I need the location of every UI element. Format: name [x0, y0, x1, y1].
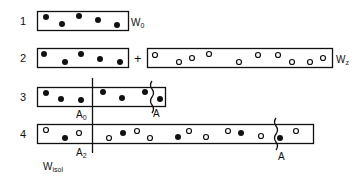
row4-open-dots — [44, 128, 299, 141]
a-label-row4: A — [278, 151, 285, 162]
a0-label: A0 — [76, 109, 87, 121]
row2-label: 2 — [20, 52, 26, 64]
row2-box-left — [38, 49, 129, 68]
w0-label: W0 — [131, 17, 144, 29]
row2-left-dots — [41, 51, 123, 65]
row3-dots — [43, 89, 163, 103]
row4-break-brace — [275, 118, 278, 150]
row2-right-dots — [153, 52, 326, 65]
wz-label: Wz — [336, 54, 349, 66]
row3-label: 3 — [20, 91, 26, 103]
row1-dots — [43, 13, 120, 28]
row1-box — [38, 12, 129, 31]
a2-label: A2 — [76, 147, 87, 159]
row4-label: 4 — [20, 128, 26, 140]
wisol-label: Wisol — [43, 161, 63, 173]
diagram: 1 2 3 4 W0 + Wz A0 A A2 A Wisol — [0, 0, 363, 182]
row4-filled-dots — [62, 130, 283, 141]
row1-label: 1 — [20, 15, 26, 27]
plus-operator: + — [134, 51, 142, 66]
a-label-row3: A — [153, 108, 160, 119]
